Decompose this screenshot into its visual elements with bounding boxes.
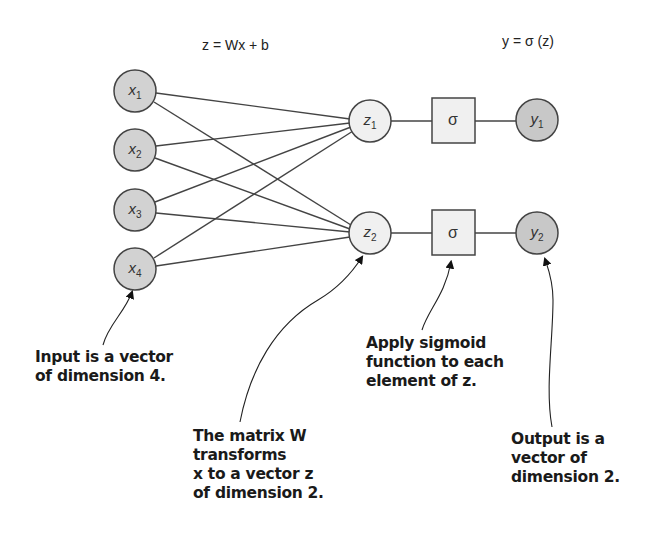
label-sub: 3 (136, 209, 142, 220)
activation-formula: y = σ (z) (502, 33, 554, 49)
label-base: x (128, 200, 136, 217)
hidden-label-z1: z1 (363, 111, 376, 131)
input-label-x4: x4 (128, 259, 141, 279)
input-label-x3: x3 (128, 200, 141, 220)
label-sub: 2 (538, 232, 544, 243)
output-callout-arrow (545, 259, 553, 427)
output-label-y2: y2 (530, 223, 543, 243)
annotation-line: element of z. (366, 372, 504, 391)
label-sub: 2 (136, 149, 142, 160)
annotation-line: The matrix W (193, 427, 324, 446)
input-nodes (114, 70, 156, 290)
label-sub: 1 (538, 119, 544, 130)
sigmoid-annotation: Apply sigmoid function to each element o… (366, 334, 504, 391)
label-sub: 1 (136, 90, 142, 101)
label-sub: 1 (371, 120, 377, 131)
label-sub: 4 (136, 268, 142, 279)
annotation-line: function to each (366, 353, 504, 372)
annotation-line: Apply sigmoid (366, 334, 504, 353)
hidden-label-z2: z2 (363, 223, 376, 243)
label-base: z (363, 111, 371, 128)
sigmoid-symbol-2: σ (448, 224, 458, 242)
input-label-x2: x2 (128, 140, 141, 160)
output-label-y1: y1 (530, 110, 543, 130)
label-base: z (363, 223, 371, 240)
annotation-line: Input is a vector (35, 348, 173, 367)
input-callout-arrow (103, 292, 132, 345)
annotation-line: of dimension 2. (193, 484, 324, 503)
matrix-callout-arrow (240, 257, 362, 422)
annotation-line: dimension 2. (511, 468, 620, 487)
input-annotation: Input is a vector of dimension 4. (35, 348, 173, 386)
input-label-x1: x1 (128, 81, 141, 101)
output-annotation: Output is a vector of dimension 2. (511, 430, 620, 487)
annotation-line: Output is a (511, 430, 620, 449)
label-base: x (128, 259, 136, 276)
label-base: y (530, 223, 538, 240)
annotation-line: of dimension 4. (35, 367, 173, 386)
label-base: y (530, 110, 538, 127)
matrix-annotation: The matrix W transforms x to a vector z … (193, 427, 324, 503)
annotation-line: transforms (193, 446, 324, 465)
annotation-line: x to a vector z (193, 465, 324, 484)
label-base: x (128, 140, 136, 157)
sigmoid-callout-arrow (422, 262, 451, 330)
annotation-line: vector of (511, 449, 620, 468)
sigmoid-symbol-1: σ (448, 111, 458, 129)
label-sub: 2 (371, 232, 377, 243)
label-base: x (128, 81, 136, 98)
linear-formula: z = Wx + b (202, 37, 269, 53)
weight-edges (154, 93, 353, 266)
